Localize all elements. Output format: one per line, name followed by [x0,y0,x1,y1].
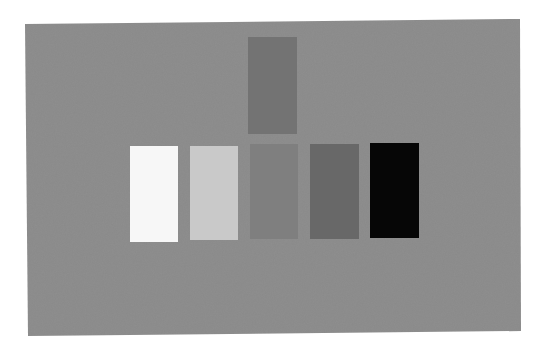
photo-scene: reference gray whitelight graymid grayda… [0,0,548,354]
patch-mid-gray: mid gray [250,144,298,239]
top-reference-patch: reference gray [248,37,297,134]
patch-light-gray: light gray [190,146,238,240]
patch-black: black [370,143,419,238]
patch-dark-gray: dark gray [310,144,359,239]
patch-white: white [130,146,178,242]
